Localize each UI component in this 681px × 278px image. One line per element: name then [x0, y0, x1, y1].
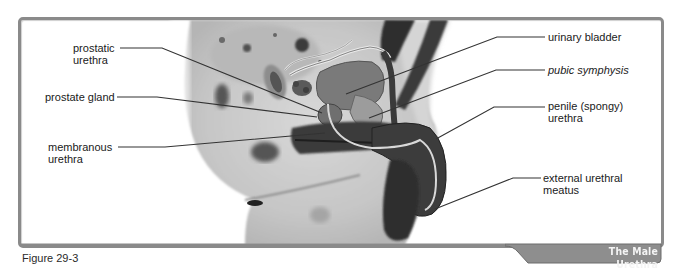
label-pubic-symphysis: pubic symphysis — [548, 64, 629, 76]
label-line: urethra — [48, 153, 112, 165]
leader-penile-urethra — [436, 107, 545, 139]
pelvis-body-shape — [170, 20, 450, 250]
label-prostatic-urethra: prostatic urethra — [73, 42, 115, 66]
label-line: urinary bladder — [548, 31, 621, 43]
figure-title: The Male Urethra — [565, 245, 659, 271]
label-line: prostate gland — [45, 91, 115, 103]
label-external-urethral-meatus: external urethral meatus — [543, 172, 623, 196]
label-penile-urethra: penile (spongy) urethra — [548, 100, 623, 124]
figure-caption: Figure 29-3 — [22, 252, 78, 264]
label-membranous-urethra: membranous urethra — [48, 141, 112, 165]
label-line: membranous — [48, 141, 112, 153]
label-line: pubic symphysis — [548, 64, 629, 76]
leader-external-urethral-meatus — [435, 178, 541, 209]
label-line: external urethral — [543, 172, 623, 184]
label-line: prostatic — [73, 42, 115, 54]
label-line: urethra — [73, 54, 115, 66]
label-prostate-gland: prostate gland — [45, 91, 115, 103]
label-line: penile (spongy) — [548, 100, 623, 112]
label-line: urethra — [548, 112, 623, 124]
label-line: meatus — [543, 184, 623, 196]
label-urinary-bladder: urinary bladder — [548, 31, 621, 43]
